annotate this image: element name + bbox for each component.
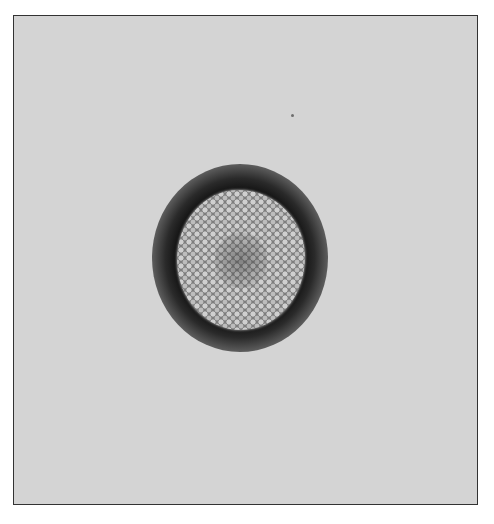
micrograph-frame	[13, 15, 478, 505]
particle	[177, 190, 305, 330]
particle-center-shading	[215, 232, 266, 288]
debris-speck	[291, 114, 294, 117]
